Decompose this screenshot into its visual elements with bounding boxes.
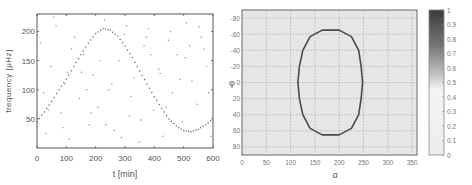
- track-point: [190, 131, 192, 133]
- x-tick-label: 150: [309, 159, 320, 166]
- track-point: [73, 66, 75, 68]
- y-tick-label: 80: [233, 143, 241, 150]
- x-tick-label: 100: [285, 159, 296, 166]
- track-point: [53, 97, 55, 99]
- track-point: [41, 114, 43, 116]
- noise-point: [40, 42, 41, 43]
- noise-point: [55, 25, 56, 26]
- noise-point: [126, 25, 127, 26]
- track-point: [44, 111, 46, 113]
- noise-point: [172, 92, 173, 93]
- track-point: [88, 42, 90, 44]
- track-point: [51, 101, 53, 103]
- x-tick-label: 0: [240, 159, 244, 166]
- track-point: [75, 62, 77, 64]
- noise-point: [74, 37, 75, 38]
- noise-point: [206, 66, 207, 67]
- noise-point: [105, 124, 106, 125]
- frequency-scatter-plot: 0100200300400500600 50100150200 t [min] …: [4, 14, 220, 179]
- track-point: [119, 39, 121, 41]
- track-point: [97, 31, 99, 33]
- track-point: [200, 127, 202, 129]
- track-point: [183, 130, 185, 132]
- track-point: [83, 50, 85, 52]
- noise-point: [45, 133, 46, 134]
- noise-point: [191, 80, 192, 81]
- colorbar-tick-label: 0.6: [447, 65, 456, 72]
- x-axis-label: t [min]: [113, 169, 138, 179]
- y-tick-label: 100: [22, 86, 36, 95]
- noise-point: [208, 92, 209, 93]
- noise-point: [111, 83, 112, 84]
- y-tick-label: -60: [231, 31, 241, 38]
- colorbar-tick-label: 0: [447, 152, 451, 159]
- noise-point: [81, 72, 82, 73]
- track-point: [141, 75, 143, 77]
- track-point: [102, 28, 104, 30]
- colorbar-tick-label: 0.7: [447, 50, 456, 57]
- track-point: [144, 79, 146, 81]
- noise-point: [124, 34, 125, 35]
- x-tick-label: 400: [148, 154, 162, 163]
- colorbar-tick-label: 0.2: [447, 123, 456, 130]
- track-point: [46, 108, 48, 110]
- noise-point: [162, 136, 163, 137]
- noise-point: [170, 31, 171, 32]
- track-point: [168, 118, 170, 120]
- track-point: [176, 125, 178, 127]
- noise-point: [138, 142, 139, 143]
- track-point: [185, 130, 187, 132]
- x-tick-label: 300: [382, 159, 393, 166]
- noise-point: [97, 107, 98, 108]
- y-tick-label: 150: [22, 57, 36, 66]
- track-point: [161, 108, 163, 110]
- track-point: [188, 131, 190, 133]
- y-tick-label: 50: [26, 115, 35, 124]
- track-point: [136, 66, 138, 68]
- x-tick-label: 350: [407, 159, 418, 166]
- noise-point: [69, 139, 70, 140]
- x-tick-label: 200: [334, 159, 345, 166]
- track-point: [193, 130, 195, 132]
- noise-point: [186, 22, 187, 23]
- track-point: [124, 45, 126, 47]
- noise-point: [145, 37, 146, 38]
- track-point: [202, 125, 204, 127]
- track-point: [156, 100, 158, 102]
- x-axis-label: α: [332, 170, 337, 180]
- track-point: [58, 89, 60, 91]
- track-point: [146, 83, 148, 85]
- track-point: [139, 70, 141, 72]
- noise-point: [168, 40, 169, 41]
- noise-point: [79, 98, 80, 99]
- x-axis-ticks: 050100150200250300350: [240, 159, 418, 166]
- colorbar-tick-label: 0.5: [447, 79, 456, 86]
- noise-point: [129, 115, 130, 116]
- track-point: [154, 96, 156, 98]
- colorbar: 00.10.20.30.40.50.60.70.80.91: [429, 7, 456, 159]
- colorbar-tick-label: 0.1: [447, 137, 456, 144]
- x-tick-label: 250: [358, 159, 369, 166]
- noise-point: [165, 107, 166, 108]
- track-point: [105, 28, 107, 30]
- track-point: [70, 70, 72, 72]
- colorbar-tick-label: 0.9: [447, 21, 456, 28]
- track-point: [151, 92, 153, 94]
- track-point: [171, 120, 173, 122]
- track-point: [117, 35, 119, 37]
- x-tick-label: 300: [118, 154, 132, 163]
- track-point: [78, 58, 80, 60]
- noise-point: [89, 124, 90, 125]
- track-point: [48, 104, 50, 106]
- noise-point: [60, 112, 61, 113]
- track-point: [63, 82, 65, 84]
- noise-point: [182, 121, 183, 122]
- noise-point: [121, 137, 122, 138]
- noise-point: [104, 19, 105, 20]
- noise-point: [133, 77, 134, 78]
- y-tick-label: 200: [22, 27, 36, 36]
- track-point: [132, 57, 134, 59]
- noise-point: [86, 89, 87, 90]
- noise-point: [118, 60, 119, 61]
- noise-point: [92, 75, 93, 76]
